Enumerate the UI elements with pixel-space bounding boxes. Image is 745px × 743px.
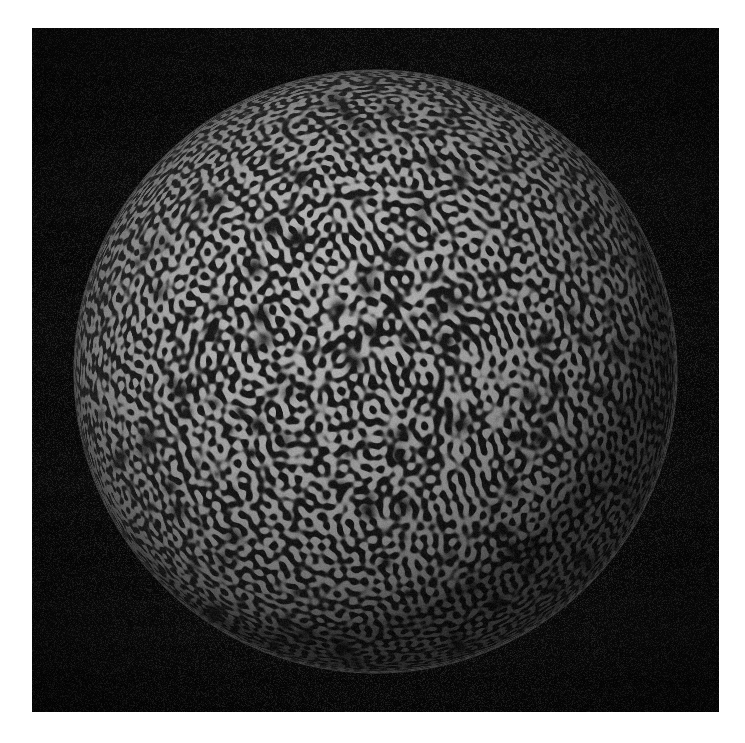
figure-root: Turing pattern on a spherical surface Or… (0, 0, 745, 743)
turing-sphere-image (0, 0, 745, 743)
